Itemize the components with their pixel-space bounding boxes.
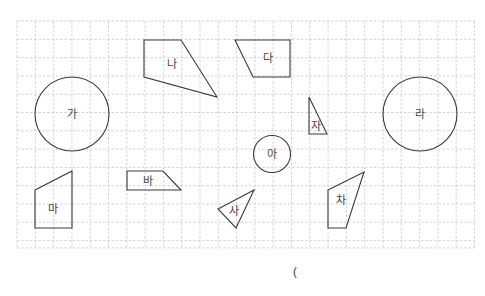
shapes-layer: 가나다라마바사아자차	[35, 40, 457, 228]
shape-label-cha: 차	[336, 194, 346, 207]
shape-ba	[127, 171, 181, 190]
shape-label-ga: 가	[67, 108, 77, 121]
shape-na	[144, 40, 217, 97]
shape-label-na: 나	[167, 58, 177, 71]
answer-parenthesis: (	[292, 265, 297, 280]
shape-label-ra: 라	[415, 108, 425, 121]
shape-label-ja: 자	[311, 120, 321, 133]
shape-label-sa: 사	[229, 205, 239, 218]
shape-label-a: 아	[267, 148, 277, 161]
shapes-grid-diagram: 가나다라마바사아자차 (	[0, 0, 485, 296]
dashed-grid	[17, 21, 475, 248]
shape-label-ma: 마	[48, 203, 58, 216]
shape-label-ba: 바	[143, 175, 153, 188]
shape-label-da: 다	[263, 52, 273, 65]
